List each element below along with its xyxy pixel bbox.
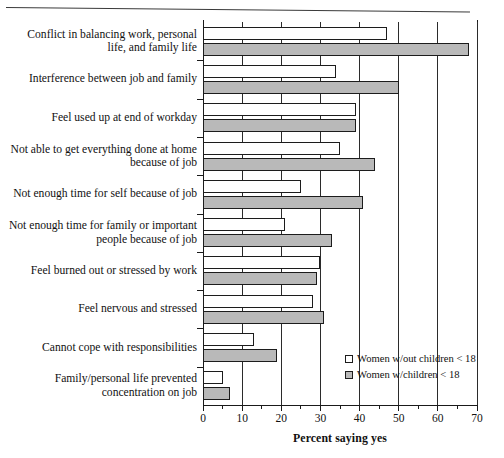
x-tick-label-20: 20 xyxy=(266,412,296,425)
bar-row1-women-without-children xyxy=(203,65,336,78)
x-tick-60 xyxy=(437,405,438,411)
x-tick-65 xyxy=(457,405,458,409)
gridline-10 xyxy=(242,22,243,405)
y-tick-4 xyxy=(197,175,203,176)
bar-row2-women-without-children xyxy=(203,103,356,116)
bar-row7-women-without-children xyxy=(203,295,313,308)
x-tick-35 xyxy=(340,405,341,409)
x-tick-70 xyxy=(477,405,478,411)
bar-row2-women-with-children xyxy=(203,119,356,132)
x-tick-5 xyxy=(222,405,223,409)
category-label-5: Not enough time for family or important … xyxy=(7,219,197,246)
gridline-20 xyxy=(281,22,282,405)
plot-area xyxy=(203,22,477,405)
x-tick-40 xyxy=(359,405,360,411)
x-tick-45 xyxy=(379,405,380,409)
bar-row4-women-without-children xyxy=(203,180,301,193)
gridline-30 xyxy=(320,22,321,405)
legend-label-women-without-children: Women w/out children < 18 xyxy=(357,352,476,366)
gridline-60 xyxy=(437,22,438,405)
category-label-7: Feel nervous and stressed xyxy=(7,302,197,316)
gridline-40 xyxy=(359,22,360,405)
x-tick-30 xyxy=(320,405,321,411)
x-axis-title: Percent saying yes xyxy=(203,431,477,446)
x-tick-label-10: 10 xyxy=(227,412,257,425)
y-tick-8 xyxy=(197,328,203,329)
bar-row5-women-without-children xyxy=(203,218,285,231)
bar-row4-women-with-children xyxy=(203,196,363,209)
x-tick-label-30: 30 xyxy=(305,412,335,425)
category-label-8: Cannot cope with responsibilities xyxy=(7,341,197,355)
x-tick-25 xyxy=(300,405,301,409)
legend-item-women-with-children: Women w/children < 18 xyxy=(345,368,476,382)
y-tick-2 xyxy=(197,99,203,100)
x-tick-label-60: 60 xyxy=(423,412,453,425)
x-tick-20 xyxy=(281,405,282,411)
x-tick-label-0: 0 xyxy=(188,412,218,425)
bar-row9-women-with-children xyxy=(203,387,230,400)
category-label-3: Not able to get everything done at home … xyxy=(7,143,197,170)
x-tick-label-50: 50 xyxy=(384,412,414,425)
bar-chart-figure: 010203040506070 Conflict in balancing wo… xyxy=(0,0,504,458)
bar-row6-women-with-children xyxy=(203,272,317,285)
legend-swatch-white-icon xyxy=(345,355,353,363)
y-tick-9 xyxy=(197,367,203,368)
y-tick-1 xyxy=(197,60,203,61)
legend-label-women-with-children: Women w/children < 18 xyxy=(357,368,460,382)
bar-row0-women-without-children xyxy=(203,27,387,40)
x-tick-label-70: 70 xyxy=(462,412,492,425)
x-tick-15 xyxy=(261,405,262,409)
y-tick-3 xyxy=(197,137,203,138)
legend-item-women-without-children: Women w/out children < 18 xyxy=(345,352,476,366)
category-label-0: Conflict in balancing work, personal lif… xyxy=(7,28,197,55)
bar-row0-women-with-children xyxy=(203,43,469,56)
bar-row8-women-with-children xyxy=(203,349,277,362)
legend-swatch-gray-icon xyxy=(345,371,353,379)
bar-row5-women-with-children xyxy=(203,234,332,247)
category-label-9: Family/personal life prevented concentra… xyxy=(7,372,197,399)
gridline-70 xyxy=(477,22,478,405)
gridline-50 xyxy=(398,22,399,405)
y-tick-7 xyxy=(197,290,203,291)
chart-legend: Women w/out children < 18 Women w/childr… xyxy=(345,352,476,384)
category-label-1: Interference between job and family xyxy=(7,72,197,86)
bar-row3-women-without-children xyxy=(203,142,340,155)
x-tick-label-40: 40 xyxy=(345,412,375,425)
y-tick-6 xyxy=(197,252,203,253)
x-tick-50 xyxy=(398,405,399,411)
category-label-4: Not enough time for self because of job xyxy=(7,187,197,201)
y-tick-5 xyxy=(197,214,203,215)
bar-row8-women-without-children xyxy=(203,333,254,346)
category-label-2: Feel used up at end of workday xyxy=(7,111,197,125)
x-tick-10 xyxy=(242,405,243,411)
bar-row3-women-with-children xyxy=(203,158,375,171)
x-tick-0 xyxy=(203,405,204,411)
category-label-6: Feel burned out or stressed by work xyxy=(7,264,197,278)
bar-row9-women-without-children xyxy=(203,371,223,384)
x-tick-55 xyxy=(418,405,419,409)
bar-row7-women-with-children xyxy=(203,311,324,324)
bar-row1-women-with-children xyxy=(203,81,399,94)
bar-row6-women-without-children xyxy=(203,256,320,269)
